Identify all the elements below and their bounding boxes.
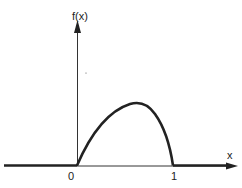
x-axis-label: x <box>227 149 233 161</box>
curve-hump <box>77 103 173 166</box>
tick-label-1: 1 <box>171 170 177 182</box>
tick-label-0: 0 <box>68 170 74 182</box>
y-axis-label: f(x) <box>72 10 88 22</box>
density-plot: f(x) x 0 1 <box>0 0 242 188</box>
speck <box>85 72 86 73</box>
